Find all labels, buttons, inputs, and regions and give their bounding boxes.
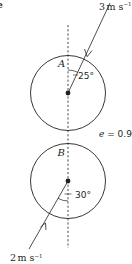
collision-diagram: e A 25° 3m s−1 e = 0.9 B 30° — [0, 0, 132, 264]
sphere-a-label: A — [57, 58, 65, 69]
sphere-a-speed-value: 3 — [99, 1, 105, 12]
sphere-b-speed-exp: −1 — [34, 253, 42, 259]
corner-fragment: e — [0, 0, 3, 10]
sphere-a-speed-exp: −1 — [123, 1, 131, 7]
sphere-b-velocity-line — [29, 181, 68, 249]
sphere-b-speed-label: 2m s−1 — [10, 252, 43, 263]
sphere-a-speed-unit: m s — [107, 1, 124, 12]
sphere-b-label: B — [57, 147, 65, 158]
sphere-a-angle-label: 25° — [78, 71, 94, 81]
sphere-b-speed-unit: m s — [18, 252, 35, 263]
sphere-b-angle-label: 30° — [75, 190, 91, 200]
sphere-b: B 30° — [29, 144, 106, 250]
sphere-b-speed-value: 2 — [10, 252, 16, 263]
restitution-label: e = 0.9 — [99, 129, 132, 139]
restitution-equals: = — [104, 129, 117, 139]
sphere-a-angle-arc — [68, 70, 78, 72]
sphere-a: A 25° — [31, 3, 111, 131]
sphere-a-speed-label: 3m s−1 — [99, 1, 132, 12]
restitution-value: 0.9 — [118, 129, 132, 139]
sphere-b-angle-arc — [58, 198, 68, 201]
